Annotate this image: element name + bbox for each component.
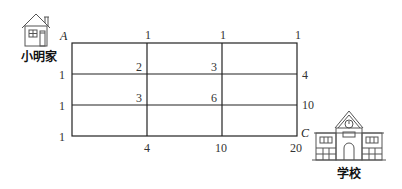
right-label-1: 4 xyxy=(302,69,308,81)
school-building-icon xyxy=(312,111,386,160)
home-label: 小明家 xyxy=(21,51,57,64)
bottom-label-3: 20 xyxy=(290,142,302,154)
left-label-3: 1 xyxy=(59,131,65,143)
point-c-label: C xyxy=(301,127,309,139)
house-icon xyxy=(22,14,50,46)
bottom-label-2: 10 xyxy=(215,142,227,154)
inner-label-r2c1: 3 xyxy=(136,92,142,104)
top-label-1: 1 xyxy=(145,29,151,41)
inner-label-r1c2: 3 xyxy=(211,61,217,73)
bottom-label-1: 4 xyxy=(144,142,150,154)
route-grid xyxy=(72,43,297,136)
left-label-2: 1 xyxy=(59,100,65,112)
point-a-label: A xyxy=(60,30,67,42)
right-label-2: 10 xyxy=(302,99,314,111)
top-label-3: 1 xyxy=(295,29,301,41)
top-label-2: 1 xyxy=(220,29,226,41)
inner-label-r2c2: 6 xyxy=(211,92,217,104)
inner-label-r1c1: 2 xyxy=(136,61,142,73)
school-label: 学校 xyxy=(337,168,361,181)
left-label-1: 1 xyxy=(59,69,65,81)
